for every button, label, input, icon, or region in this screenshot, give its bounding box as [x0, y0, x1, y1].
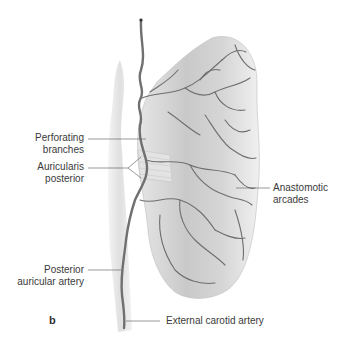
label-auricularis-posterior: Auricularis posterior — [10, 161, 84, 185]
label-line: Perforating — [10, 132, 84, 144]
label-line: External carotid artery — [166, 315, 336, 327]
auricularis-muscle — [138, 150, 172, 182]
label-line: branches — [10, 144, 84, 156]
label-line: Posterior — [0, 264, 84, 276]
label-line: arcades — [273, 194, 341, 206]
label-perforating-branches: Perforating branches — [10, 132, 84, 156]
label-line: Anastomotic — [273, 182, 341, 194]
label-anastomotic-arcades: Anastomotic arcades — [273, 182, 341, 206]
label-posterior-auricular-artery: Posterior auricular artery — [0, 264, 84, 288]
label-external-carotid-artery: External carotid artery — [166, 315, 336, 327]
tissue-strip — [108, 60, 132, 332]
panel-letter: b — [49, 314, 56, 326]
label-line: Auricularis — [10, 161, 84, 173]
label-line: auricular artery — [0, 276, 84, 288]
label-line: posterior — [10, 173, 84, 185]
